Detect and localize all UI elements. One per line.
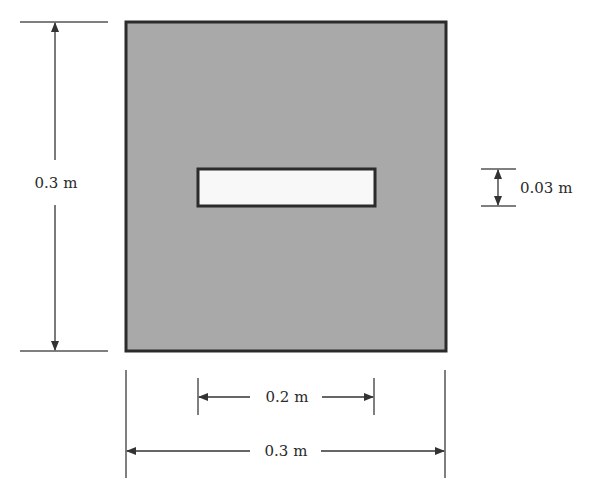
outer-height-label: 0.3 m [35,174,78,192]
outer-width-dimension: 0.3 m [126,370,445,478]
diagram-canvas: 0.3 m 0.03 m 0.2 m 0.3 m [0,0,597,503]
slot-width-dimension: 0.2 m [198,378,374,415]
slot-height-dimension: 0.03 m [481,169,572,206]
outer-width-label: 0.3 m [265,442,308,460]
inner-slot [198,169,375,206]
slot-width-label: 0.2 m [266,388,309,406]
outer-height-dimension: 0.3 m [20,22,108,351]
slot-height-label: 0.03 m [520,179,572,197]
